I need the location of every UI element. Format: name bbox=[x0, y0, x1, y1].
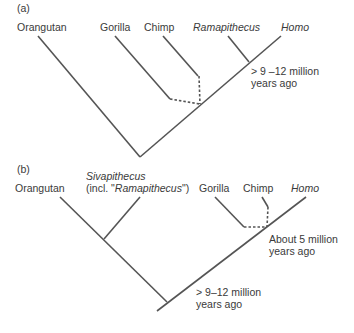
panel-b-label: (b) bbox=[17, 163, 30, 175]
date-b-old-line1: > 9–12 million bbox=[196, 286, 261, 298]
taxon-b-sivapithecus-note: (incl. "Ramapithecus") bbox=[86, 182, 189, 194]
taxon-b-sivapithecus: Sivapithecus bbox=[86, 170, 146, 182]
phylogeny-trees bbox=[0, 0, 354, 333]
taxon-b-chimp: Chimp bbox=[243, 182, 273, 194]
dotted-a bbox=[170, 76, 200, 104]
taxon-b-homo: Homo bbox=[291, 182, 319, 194]
dotted-b bbox=[244, 207, 268, 227]
panel-a-label: (a) bbox=[17, 2, 30, 14]
taxon-a-orangutan: Orangutan bbox=[17, 21, 67, 33]
taxon-a-gorilla: Gorilla bbox=[100, 21, 130, 33]
branch-b-sivapithecus bbox=[104, 197, 140, 239]
branch-b-orangutan bbox=[60, 197, 167, 302]
branch-a-ramapithecus bbox=[228, 36, 249, 62]
branch-a-homo bbox=[140, 36, 281, 157]
date-b-recent-line1: About 5 million bbox=[269, 233, 338, 245]
branch-a-gorilla bbox=[115, 36, 170, 99]
taxon-a-chimp: Chimp bbox=[144, 21, 174, 33]
taxon-a-homo: Homo bbox=[281, 21, 309, 33]
taxon-a-ramapithecus: Ramapithecus bbox=[193, 21, 260, 33]
note-italic: Ramapithecus bbox=[115, 182, 182, 194]
branch-a-orangutan bbox=[38, 36, 140, 157]
date-a-line2: years ago bbox=[251, 77, 297, 89]
note-pre: (incl. " bbox=[86, 182, 115, 194]
date-a-line1: > 9 –12 million bbox=[251, 65, 319, 77]
branch-a-chimp bbox=[163, 36, 198, 76]
date-b-recent-line2: years ago bbox=[269, 245, 315, 257]
taxon-b-orangutan: Orangutan bbox=[15, 182, 65, 194]
branch-b-gorilla bbox=[215, 197, 244, 227]
taxon-b-gorilla: Gorilla bbox=[199, 182, 229, 194]
branch-b-chimp bbox=[262, 197, 268, 207]
note-post: ") bbox=[182, 182, 189, 194]
date-b-old-line2: years ago bbox=[196, 298, 242, 310]
